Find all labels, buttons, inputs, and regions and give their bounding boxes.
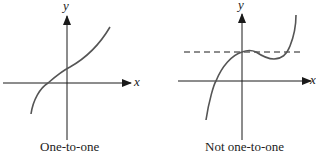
y-axis-label-left: y [63, 0, 69, 14]
x-axis-label-left: x [134, 74, 140, 90]
caption-one-to-one: One-to-one [40, 139, 99, 155]
panel-not-one-to-one [178, 14, 311, 140]
caption-not-one-to-one: Not one-to-one [205, 139, 284, 155]
x-axis-label-right: x [310, 72, 316, 88]
panel-one-to-one [3, 16, 131, 140]
graphs-canvas [0, 0, 316, 156]
not-one-to-one-curve [206, 15, 296, 120]
y-axis-label-right: y [238, 0, 244, 13]
one-to-one-curve [31, 27, 110, 114]
